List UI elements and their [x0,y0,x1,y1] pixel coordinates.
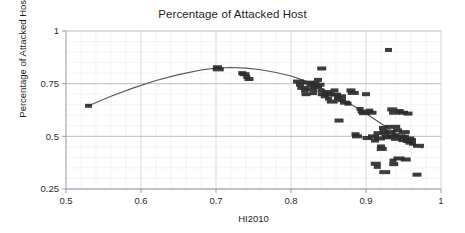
x-tick-label: 0.8 [284,195,297,206]
data-point [399,130,410,134]
y-tick-label: 1 [54,25,59,36]
data-point [310,91,317,95]
data-point [352,134,362,138]
data-point [317,67,326,71]
data-point [413,144,424,148]
x-tick-label: 0.7 [209,195,222,206]
data-point [389,162,398,166]
data-point [301,88,308,92]
data-point [385,48,392,52]
data-point [377,147,387,151]
data-point [374,165,381,169]
data-point [413,173,422,177]
data-point [213,67,224,71]
chart-container: Percentage of Attacked Host Percentage o… [0,0,465,233]
data-point [245,77,254,81]
data-point [315,83,325,87]
data-point [335,119,344,123]
minor-gridlines [66,31,441,189]
y-tick-label: 0.5 [46,131,59,142]
data-point [314,78,322,82]
x-tick-label: 0.6 [134,195,147,206]
axis-ticks [62,31,441,193]
x-tick-label: 1 [438,195,443,206]
data-point [85,104,92,108]
tick-labels: 0.50.60.70.80.910.250.50.751 [41,25,444,206]
data-point [368,111,377,115]
data-point [404,112,413,116]
data-point [302,92,311,96]
data-point [335,94,346,98]
data-point [393,125,400,129]
axis-lines [66,31,441,189]
x-tick-label: 0.5 [59,195,72,206]
y-tick-label: 0.25 [41,183,60,194]
data-point [401,158,411,162]
data-point [348,91,359,95]
data-point [406,138,416,142]
data-point [379,170,390,174]
major-gridlines [66,31,441,189]
scatter-plot-area: 0.50.60.70.80.910.250.50.751 [0,0,465,233]
x-tick-label: 0.9 [359,195,372,206]
data-point [345,102,352,106]
y-tick-label: 0.75 [41,78,60,89]
data-point [331,88,339,92]
data-point [362,92,370,96]
data-point [385,125,394,129]
